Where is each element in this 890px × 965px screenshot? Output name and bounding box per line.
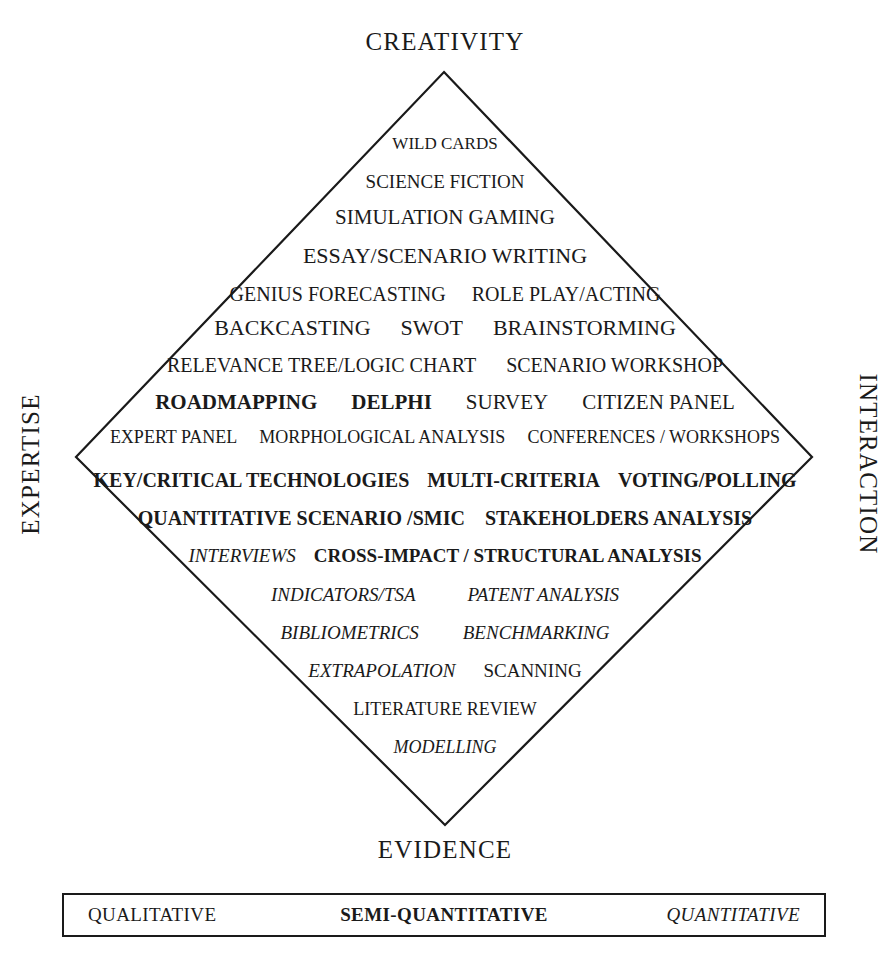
method-label: BIBLIOMETRICS [281, 623, 419, 642]
method-label: SIMULATION GAMING [335, 207, 555, 228]
method-label: MODELLING [393, 738, 496, 756]
method-label: INDICATORS/TSA [271, 585, 416, 604]
method-label: EXTRAPOLATION [308, 661, 455, 680]
method-row: LITERATURE REVIEW [0, 700, 890, 718]
method-label: ROADMAPPING [155, 392, 317, 413]
method-row: SCIENCE FICTION [0, 172, 890, 191]
axis-label-creativity: CREATIVITY [0, 28, 890, 56]
method-label: BACKCASTING [214, 317, 370, 339]
legend-box: QUALITATIVE SEMI-QUANTITATIVE QUANTITATI… [62, 893, 826, 937]
method-row: KEY/CRITICAL TECHNOLOGIESMULTI-CRITERIAV… [0, 470, 890, 490]
method-label: QUANTITATIVE SCENARIO /SMIC [138, 508, 465, 528]
method-row: EXPERT PANELMORPHOLOGICAL ANALYSISCONFER… [0, 428, 890, 446]
method-label: CROSS-IMPACT / STRUCTURAL ANALYSIS [314, 546, 702, 565]
method-label: ESSAY/SCENARIO WRITING [303, 245, 587, 267]
method-label: SURVEY [466, 392, 548, 413]
method-row: RELEVANCE TREE/LOGIC CHARTSCENARIO WORKS… [0, 355, 890, 375]
method-label: MORPHOLOGICAL ANALYSIS [259, 428, 505, 446]
axis-label-expertise: EXPERTISE [17, 349, 45, 579]
foresight-diamond-figure: CREATIVITY EVIDENCE EXPERTISE INTERACTIO… [0, 0, 890, 965]
method-row: BACKCASTINGSWOTBRAINSTORMING [0, 317, 890, 339]
method-label: VOTING/POLLING [618, 470, 797, 490]
method-label: EXPERT PANEL [110, 428, 237, 446]
method-label: RELEVANCE TREE/LOGIC CHART [167, 355, 476, 375]
method-row: BIBLIOMETRICSBENCHMARKING [0, 623, 890, 642]
method-row: INDICATORS/TSAPATENT ANALYSIS [0, 585, 890, 604]
method-label: SCENARIO WORKSHOP [506, 355, 723, 375]
method-row: ESSAY/SCENARIO WRITING [0, 245, 890, 267]
method-label: SCIENCE FICTION [366, 172, 525, 191]
method-label: KEY/CRITICAL TECHNOLOGIES [94, 470, 410, 490]
method-label: MULTI-CRITERIA [427, 470, 600, 490]
legend-item-quantitative: QUANTITATIVE [666, 904, 800, 926]
method-row: EXTRAPOLATIONSCANNING [0, 661, 890, 680]
method-label: SCANNING [483, 661, 581, 680]
method-row: ROADMAPPINGDELPHISURVEYCITIZEN PANEL [0, 392, 890, 413]
method-label: GENIUS FORECASTING [230, 284, 446, 304]
method-label: DELPHI [351, 392, 432, 413]
method-label: LITERATURE REVIEW [353, 700, 536, 718]
method-row: INTERVIEWSCROSS-IMPACT / STRUCTURAL ANAL… [0, 546, 890, 565]
method-label: WILD CARDS [392, 135, 497, 152]
method-row: WILD CARDS [0, 135, 890, 152]
method-label: CONFERENCES / WORKSHOPS [527, 428, 780, 446]
method-label: CITIZEN PANEL [582, 392, 735, 413]
method-row: GENIUS FORECASTINGROLE PLAY/ACTING [0, 284, 890, 304]
method-label: SWOT [401, 317, 463, 339]
method-row: SIMULATION GAMING [0, 207, 890, 228]
method-row: QUANTITATIVE SCENARIO /SMICSTAKEHOLDERS … [0, 508, 890, 528]
axis-label-evidence: EVIDENCE [0, 836, 890, 864]
method-row: MODELLING [0, 738, 890, 756]
method-label: BENCHMARKING [463, 623, 610, 642]
method-label: PATENT ANALYSIS [468, 585, 620, 604]
method-label: BRAINSTORMING [493, 317, 676, 339]
method-label: ROLE PLAY/ACTING [472, 284, 661, 304]
method-label: STAKEHOLDERS ANALYSIS [485, 508, 752, 528]
method-label: INTERVIEWS [189, 546, 296, 565]
